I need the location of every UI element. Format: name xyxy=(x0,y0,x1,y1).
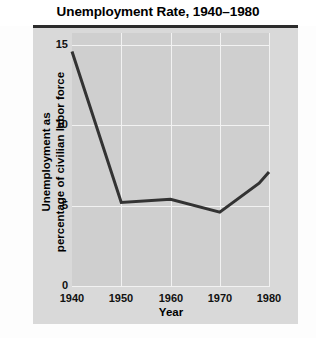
series-layer xyxy=(0,0,316,338)
unemployment-line xyxy=(72,51,269,212)
chart-figure: Unemployment Rate, 1940–1980 15 10 5 0 1… xyxy=(0,0,316,338)
